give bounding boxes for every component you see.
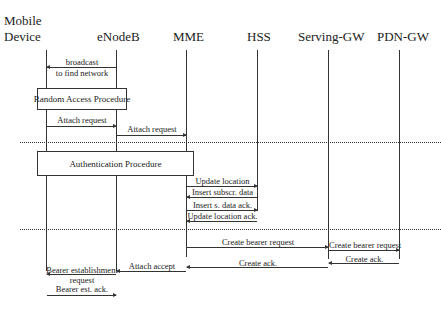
message-label: Create bearer request [187, 237, 329, 247]
message-label: Attach accept [117, 261, 187, 271]
message-label: Insert s. data ack. [187, 200, 258, 210]
message-label: to find network [47, 68, 117, 78]
participant-pdn-gw: PDN-GW [377, 29, 429, 45]
arrow-attach-request [47, 126, 116, 127]
arrow-attach-request [117, 135, 186, 136]
arrow-create-ack [329, 263, 399, 264]
participant-serving-gw: Serving-GW [298, 29, 364, 45]
message-label: Attach request [47, 115, 117, 125]
arrow-create-ack [187, 267, 328, 268]
arrow-attach-accept [117, 271, 186, 272]
message-label: Update location ack. [187, 211, 258, 221]
participant-mobile-device: Mobile Device [4, 13, 42, 45]
participant-mme: MME [173, 29, 204, 45]
message-label: Create bearer request [329, 240, 400, 250]
arrow-update-location-ack [187, 221, 257, 222]
participant-label: Mobile [4, 13, 42, 29]
message-label: Attach request [117, 124, 187, 134]
arrow-insert-subscr-data [187, 197, 257, 198]
participant-hss: HSS [247, 29, 271, 45]
arrow-create-bearer-request [329, 250, 399, 251]
arrow-bearer-est-ack [47, 295, 116, 296]
lifeline-pdn-gw [399, 50, 400, 259]
random-access-procedure-box: Random Access Procedure [37, 88, 127, 110]
message-label: Bearer est. ack. [47, 284, 117, 294]
phase-separator [20, 142, 441, 143]
authentication-procedure-box: Authentication Procedure [37, 151, 194, 176]
participant-label: Device [4, 29, 42, 45]
phase-separator [20, 229, 441, 230]
message-label: Insert subscr. data [187, 187, 258, 197]
participant-enodeb: eNodeB [97, 29, 140, 45]
arrow-create-bearer-request [187, 247, 328, 248]
message-label: broadcast [47, 57, 117, 67]
message-label: Update location [187, 176, 258, 186]
lifeline-serving-gw [328, 50, 329, 259]
